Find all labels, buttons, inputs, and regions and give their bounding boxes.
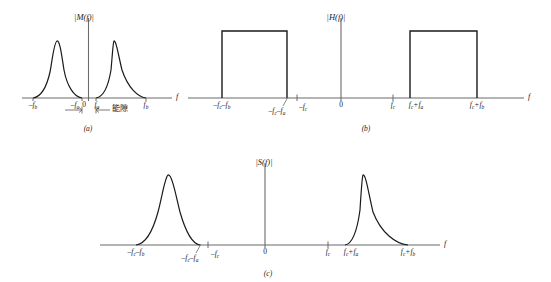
panel-b-leader-neg-fc-fa bbox=[283, 97, 288, 106]
panel-a-tick-label-pos-fb: fb bbox=[144, 101, 149, 110]
figure-canvas: |M(f)| f 0 –fb –fa fa fb 能隙 (a) |H(f)| f… bbox=[0, 0, 551, 282]
panel-b-axis-title: |H(f)| bbox=[327, 13, 346, 22]
tick-sub2: a bbox=[355, 251, 358, 257]
panel-b-axis-variable: f bbox=[528, 93, 530, 101]
panel-b-tick-label-pos-fc-fb: fc+fb bbox=[470, 101, 484, 110]
panel-b-tick-label-neg-fc: –fc bbox=[299, 103, 307, 112]
panel-c-positive-lobe bbox=[345, 175, 408, 245]
panel-b-tick-label-pos-fc: fc bbox=[391, 101, 396, 110]
tick-sub2: b bbox=[481, 104, 484, 110]
tick-sub2: a bbox=[420, 104, 423, 110]
panel-a-caption: (a) bbox=[84, 125, 93, 133]
panel-c-leader-neg-fc-fa bbox=[196, 244, 201, 253]
tick-sub: c bbox=[328, 251, 330, 257]
panel-c-tick-label-neg-fc-fa: –fc–fa bbox=[182, 254, 199, 263]
panel-c-negative-lobe bbox=[136, 175, 200, 245]
figure-vector-layer bbox=[0, 0, 551, 282]
panel-a-axis-title: |M(f)| bbox=[74, 13, 94, 22]
panel-c-axis-variable: f bbox=[444, 240, 446, 248]
panel-a-tick-label-neg-fa: –fa bbox=[71, 101, 80, 110]
panel-c-caption: (c) bbox=[264, 270, 272, 278]
tick-sub2: b bbox=[142, 251, 145, 257]
panel-b-caption: (b) bbox=[362, 125, 371, 133]
panel-a-tick-label-neg-fb: –fb bbox=[29, 101, 38, 110]
panel-a-positive-lobe bbox=[96, 41, 146, 98]
tick-sub: b bbox=[146, 104, 149, 110]
tick-sub2: a bbox=[283, 110, 286, 116]
panel-c-tick-label-neg-fc: –fc bbox=[211, 250, 219, 259]
panel-b-right-passband bbox=[410, 31, 477, 98]
panel-b-tick-label-neg-fc-fa: –fc–fa bbox=[269, 107, 286, 116]
panel-b-left-passband bbox=[222, 31, 287, 98]
panel-a-axis-variable: f bbox=[176, 93, 178, 101]
tick-sub: c bbox=[305, 106, 307, 112]
tick-sub: c bbox=[217, 253, 219, 259]
panel-a-origin-label: 0 bbox=[82, 101, 86, 109]
tick-sub: a bbox=[77, 104, 80, 110]
panel-b-origin-label: 0 bbox=[339, 101, 343, 109]
tick-sub2: a bbox=[196, 257, 199, 263]
tick-sub: b bbox=[35, 104, 38, 110]
panel-a-graphics bbox=[22, 18, 172, 114]
panel-b-tick-label-neg-fc-fb: –fc–fb bbox=[214, 101, 231, 110]
panel-a-tick-label-pos-fa: fa bbox=[95, 101, 100, 110]
panel-a-negative-lobe bbox=[33, 41, 82, 98]
panel-c-origin-label: 0 bbox=[263, 248, 267, 256]
panel-b-graphics bbox=[188, 18, 524, 106]
tick-sub2: b bbox=[412, 251, 415, 257]
panel-a-energy-gap-annotation: 能隙 bbox=[112, 105, 128, 113]
panel-c-tick-label-pos-fc-fa: fc+fa bbox=[344, 248, 358, 257]
tick-sub: c bbox=[393, 104, 395, 110]
panel-c-tick-label-pos-fc-fb: fc+fb bbox=[401, 248, 415, 257]
tick-sub: a bbox=[97, 104, 100, 110]
tick-sub2: b bbox=[228, 104, 231, 110]
panel-c-tick-label-neg-fc-fb: –fc–fb bbox=[128, 248, 145, 257]
panel-c-tick-label-pos-fc: fc bbox=[326, 248, 331, 257]
panel-c-graphics bbox=[100, 163, 440, 253]
panel-b-tick-label-pos-fc-fa: fc+fa bbox=[409, 101, 423, 110]
panel-c-axis-title: |S(f)| bbox=[256, 158, 273, 167]
